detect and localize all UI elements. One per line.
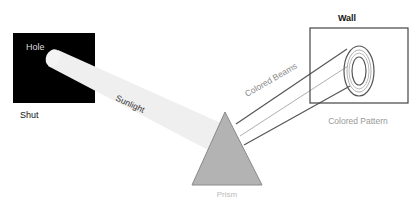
- wall-label: Wall: [338, 13, 356, 23]
- hole-label: Hole: [26, 42, 45, 52]
- colored-pattern-label: Colored Pattern: [328, 116, 388, 126]
- prism-diagram: Hole Shut Sunlight Colored Beams Wall Co…: [0, 0, 416, 205]
- prism-label: Prism: [217, 190, 238, 199]
- colored-pattern-rings: [344, 46, 374, 96]
- shut-label: Shut: [20, 110, 39, 120]
- colored-beams-label: Colored Beams: [243, 61, 299, 99]
